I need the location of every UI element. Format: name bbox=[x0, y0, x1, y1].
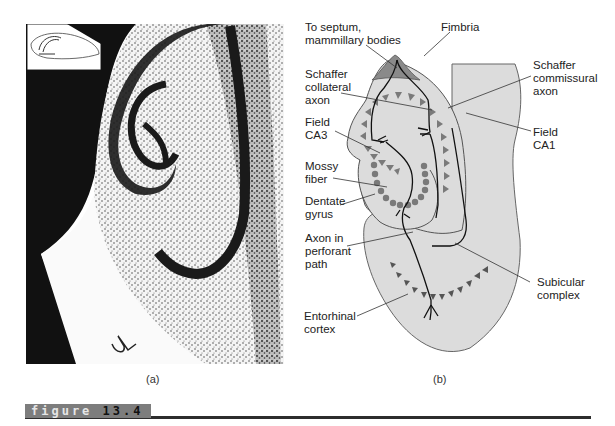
figure-word: figure bbox=[25, 404, 92, 418]
label-dentate-gyrus: Dentate gyrus bbox=[305, 195, 345, 221]
label-perforant-path: Axon in perforant path bbox=[305, 232, 351, 271]
label-schaffer-collateral: Schaffer collateral axon bbox=[305, 68, 351, 107]
label-field-ca3: Field CA3 bbox=[305, 116, 330, 142]
figure-number: 13.4 bbox=[103, 404, 144, 418]
label-septum: To septum, mammillary bodies bbox=[305, 21, 401, 47]
panel-b-caption: (b) bbox=[433, 373, 446, 385]
label-fimbria: Fimbria bbox=[441, 21, 479, 34]
caption-rule bbox=[151, 416, 591, 419]
label-schaffer-commissural: Schaffer commissural axon bbox=[533, 59, 598, 98]
label-mossy-fiber: Mossy fiber bbox=[305, 160, 338, 186]
label-subicular-complex: Subicular complex bbox=[537, 276, 585, 302]
figure-number-banner: figure 13.4 bbox=[25, 404, 151, 419]
label-field-ca1: Field CA1 bbox=[533, 126, 558, 152]
label-entorhinal-cortex: Entorhinal cortex bbox=[304, 310, 356, 336]
caption-rule-under-banner bbox=[25, 418, 151, 419]
